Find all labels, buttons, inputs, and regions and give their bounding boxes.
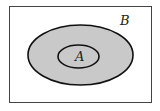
set-a-label: A — [74, 49, 84, 64]
venn-diagram: A B — [0, 0, 160, 111]
set-b-label: B — [119, 13, 130, 28]
